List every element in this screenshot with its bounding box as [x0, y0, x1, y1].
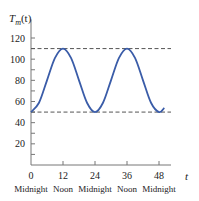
x-tick-label: 0 — [29, 170, 34, 181]
labels: Tm(t) t — [9, 12, 189, 182]
y-tick-label: 120 — [10, 33, 25, 44]
x-tick-label: 36 — [122, 170, 132, 181]
y-tick-label: 80 — [15, 75, 25, 86]
x-tick-sublabel: Midnight — [14, 184, 48, 194]
y-tick-label: 60 — [15, 96, 25, 107]
x-tick-sublabel: Midnight — [78, 184, 112, 194]
y-tick-label: 100 — [10, 54, 25, 65]
series-line — [31, 49, 164, 113]
series — [31, 49, 164, 113]
x-tick-label: 24 — [90, 170, 100, 181]
x-axis-title: t — [185, 170, 189, 182]
temperature-chart: 204060801001200Midnight12Noon24Midnight3… — [0, 0, 199, 201]
axes: 204060801001200Midnight12Noon24Midnight3… — [10, 19, 176, 194]
y-tick-label: 40 — [15, 117, 25, 128]
y-tick-label: 20 — [15, 138, 25, 149]
x-tick-sublabel: Noon — [117, 184, 137, 194]
y-axis-title: Tm(t) — [9, 12, 32, 27]
x-tick-label: 12 — [58, 170, 68, 181]
x-tick-sublabel: Noon — [53, 184, 73, 194]
x-tick-sublabel: Midnight — [142, 184, 176, 194]
x-tick-label: 48 — [154, 170, 164, 181]
y-axis-title-arg: (t) — [21, 12, 32, 25]
